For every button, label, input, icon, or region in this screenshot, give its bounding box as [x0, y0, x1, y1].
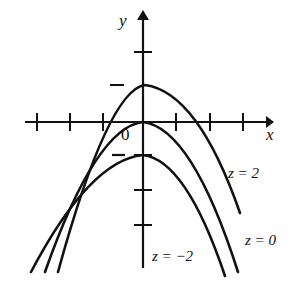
curve-z-minus-2: [31, 155, 225, 276]
y-axis-ticks: [110, 52, 152, 225]
origin-label: 0: [121, 126, 130, 143]
y-axis-label: y: [119, 12, 127, 29]
x-axis-label: x: [266, 126, 274, 143]
curve-label-z-2: z = 2: [228, 166, 259, 181]
figure-canvas: y x 0 z = 2 z = 0 z = −2: [0, 0, 300, 281]
y-axis-arrowhead: [137, 10, 149, 20]
curve-label-z-minus-2: z = −2: [152, 249, 193, 264]
level-curves-group: [31, 85, 240, 276]
curve-label-z-0: z = 0: [245, 233, 276, 248]
